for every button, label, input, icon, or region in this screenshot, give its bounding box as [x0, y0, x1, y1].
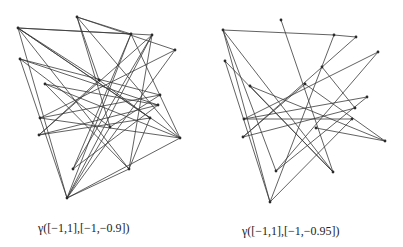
- graph-edge: [20, 59, 158, 105]
- graph-edge: [20, 59, 110, 127]
- graph-edge: [244, 97, 367, 119]
- graph-vertex: [304, 83, 307, 86]
- graph-vertex: [66, 197, 69, 200]
- graph-vertex: [243, 118, 246, 121]
- graph-vertex: [269, 201, 272, 204]
- graph-edge: [223, 30, 276, 171]
- graph-vertex: [280, 19, 283, 22]
- graph-vertex: [224, 60, 227, 63]
- graph-vertex: [98, 79, 101, 82]
- graph-vertex: [38, 134, 41, 137]
- graph-vertex: [315, 127, 318, 130]
- graph-vertex: [355, 36, 358, 39]
- graph-vertex: [72, 168, 75, 171]
- graph-vertex: [351, 118, 354, 121]
- graph-vertex: [149, 117, 152, 120]
- graph-edge: [129, 118, 150, 169]
- left-graph: [17, 16, 182, 200]
- graph-edge: [67, 35, 152, 198]
- graph-edge: [67, 127, 110, 198]
- right-graph: [222, 19, 387, 204]
- graph-edge: [305, 84, 385, 141]
- graph-vertex: [151, 34, 154, 37]
- graph-edge: [18, 28, 67, 198]
- graph-edge: [20, 59, 67, 198]
- graph-vertex: [354, 107, 357, 110]
- graph-vertex: [332, 171, 335, 174]
- graph-vertex: [377, 51, 380, 54]
- graph-vertex: [19, 58, 22, 61]
- graph-edge: [270, 119, 352, 202]
- graph-edge: [276, 52, 378, 171]
- graph-vertex: [249, 85, 252, 88]
- graph-edge: [18, 28, 129, 169]
- graph-vertex: [17, 27, 20, 30]
- graph-vertex: [109, 126, 112, 129]
- graph-vertex: [39, 117, 42, 120]
- graph-vertex: [242, 136, 245, 139]
- graph-vertex: [130, 33, 133, 36]
- graph-edge: [244, 52, 378, 119]
- graph-diagrams: [0, 0, 403, 247]
- graph-edge: [45, 84, 129, 169]
- graph-vertex: [174, 49, 177, 52]
- graph-vertex: [222, 29, 225, 32]
- graph-edge: [67, 138, 180, 198]
- left-graph-caption: γ([−1,1],[−1,−0.9]): [38, 221, 130, 236]
- graph-vertex: [44, 83, 47, 86]
- graph-vertex: [366, 96, 369, 99]
- graph-vertex: [157, 104, 160, 107]
- graph-edge: [223, 30, 333, 172]
- graph-vertex: [76, 16, 79, 19]
- right-graph-caption: γ([−1,1],[−1,−0.95]): [242, 224, 340, 239]
- graph-vertex: [275, 170, 278, 173]
- graph-edge: [223, 30, 334, 35]
- graph-edge: [334, 35, 356, 37]
- graph-edge: [270, 35, 334, 202]
- graph-vertex: [321, 66, 324, 69]
- graph-edge: [18, 28, 180, 138]
- graph-vertex: [128, 168, 131, 171]
- graph-vertex: [179, 137, 182, 140]
- graph-vertex: [333, 34, 336, 37]
- graph-edge: [73, 34, 131, 169]
- graph-vertex: [159, 94, 162, 97]
- graph-vertex: [384, 140, 387, 143]
